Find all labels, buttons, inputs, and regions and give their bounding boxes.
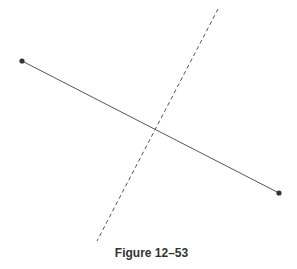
figure-caption: Figure 12–53 — [0, 246, 297, 260]
endpoint-right — [276, 190, 281, 195]
figure-canvas — [0, 0, 297, 269]
perpendicular-bisector-dashed-line — [97, 9, 218, 241]
line-segment — [22, 61, 279, 193]
endpoint-left — [19, 58, 24, 63]
